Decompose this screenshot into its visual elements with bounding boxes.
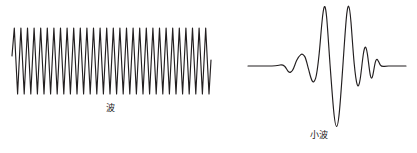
wavelet-curve [248, 6, 406, 126]
wave-caption-label: 波 [0, 103, 220, 114]
figure-root: 波 小波 [0, 0, 417, 153]
wave-curve [12, 28, 211, 94]
wavelet-plot [220, 0, 417, 130]
wave-plot [0, 0, 220, 103]
wave-panel: 波 [0, 0, 220, 153]
wavelet-panel: 小波 [220, 0, 417, 153]
wavelet-caption-label: 小波 [220, 130, 417, 141]
